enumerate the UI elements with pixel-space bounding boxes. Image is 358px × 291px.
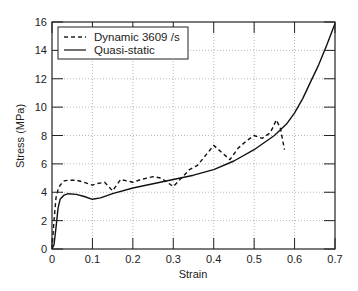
y-tick-label: 6	[41, 158, 47, 170]
x-tick-label: 0.6	[287, 253, 302, 265]
stress-strain-chart: 00.10.20.30.40.50.60.70246810121416 Stra…	[0, 0, 358, 291]
x-tick-label: 0	[49, 253, 55, 265]
y-tick-label: 0	[41, 243, 47, 255]
dynamic-series-line	[52, 120, 285, 249]
y-tick-label: 14	[35, 44, 47, 56]
legend: Dynamic 3609 /s Quasi-static	[58, 27, 188, 59]
x-tick-label: 0.7	[327, 253, 342, 265]
y-tick-label: 8	[41, 130, 47, 142]
y-tick-label: 4	[41, 186, 47, 198]
x-tick-label: 0.2	[125, 253, 140, 265]
y-tick-label: 16	[35, 16, 47, 28]
x-tick-label: 0.3	[166, 253, 181, 265]
y-axis-label: Stress (MPa)	[14, 104, 26, 168]
y-tick-label: 12	[35, 73, 47, 85]
y-tick-label: 2	[41, 215, 47, 227]
x-axis-label: Strain	[179, 268, 208, 280]
legend-label-dynamic: Dynamic 3609 /s	[94, 31, 180, 43]
x-tick-label: 0.4	[206, 253, 221, 265]
x-tick-label: 0.1	[85, 253, 100, 265]
legend-label-quasi-static: Quasi-static	[94, 44, 155, 56]
x-tick-label: 0.5	[246, 253, 261, 265]
y-tick-label: 10	[35, 101, 47, 113]
